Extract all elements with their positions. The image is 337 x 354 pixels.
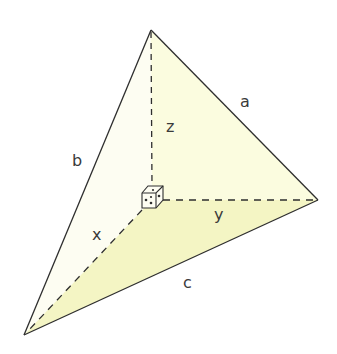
tetrahedron-diagram: a b c x y z bbox=[0, 0, 337, 354]
label-b: b bbox=[72, 151, 82, 170]
label-a: a bbox=[240, 92, 250, 111]
label-c: c bbox=[183, 273, 192, 292]
label-y: y bbox=[214, 205, 223, 224]
label-z: z bbox=[166, 117, 174, 136]
label-x: x bbox=[92, 225, 101, 244]
